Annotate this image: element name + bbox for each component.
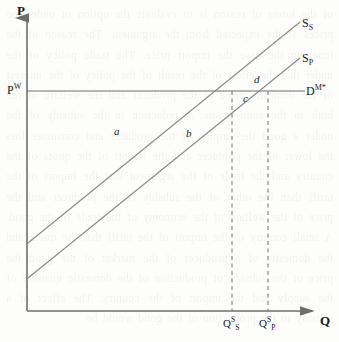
world-price-label: PW (7, 83, 21, 96)
area-label-b: b (186, 128, 192, 139)
diagram-canvas (0, 0, 339, 342)
demand-curve-label: DM* (306, 84, 326, 97)
area-label-a: a (114, 126, 120, 137)
supply-curve-p-label: SP (302, 52, 313, 67)
supply-demand-diagram: of the lower of reason is to evaluate th… (0, 0, 339, 342)
price-axis-label: P (17, 4, 25, 17)
quantity-p-label: QSP (259, 316, 275, 331)
supply-curve-s-line (28, 22, 300, 243)
area-label-d: d (254, 74, 260, 85)
area-label-c: c (243, 93, 248, 104)
supply-curve-s-label: SS (302, 17, 313, 32)
quantity-axis-label: Q (320, 314, 330, 327)
quantity-s-label: QSS (223, 316, 239, 331)
